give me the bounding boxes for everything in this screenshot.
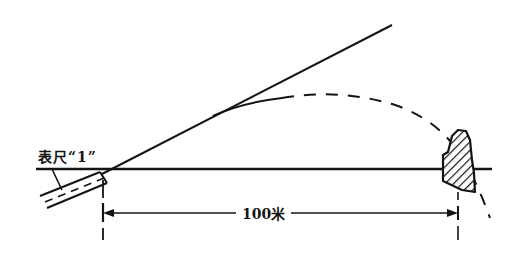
distance-label: 100米	[236, 203, 291, 223]
barrel	[40, 169, 107, 208]
line-of-sight	[102, 25, 392, 174]
gauge-setting-label: 表尺“1”	[38, 146, 97, 166]
trajectory-solid	[213, 98, 282, 116]
